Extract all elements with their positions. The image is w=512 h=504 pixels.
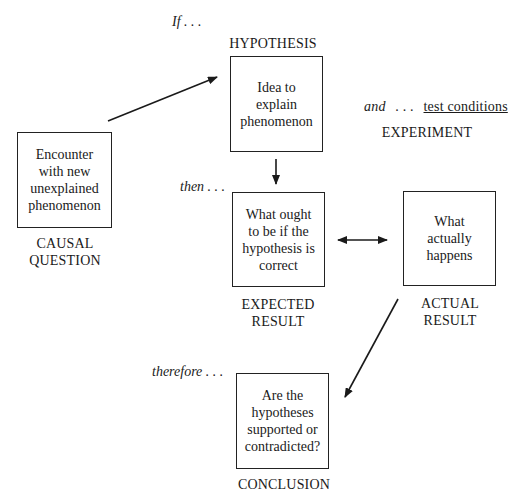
arrow-question-to-hypothesis (108, 77, 217, 121)
arrows-layer (0, 0, 512, 504)
arrow-actual-to-conclusion (345, 299, 398, 397)
